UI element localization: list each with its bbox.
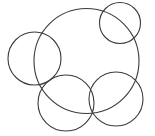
figure-canvas <box>0 0 155 136</box>
canvas-background <box>0 0 155 136</box>
overlapping-circles-drawing <box>0 0 155 136</box>
